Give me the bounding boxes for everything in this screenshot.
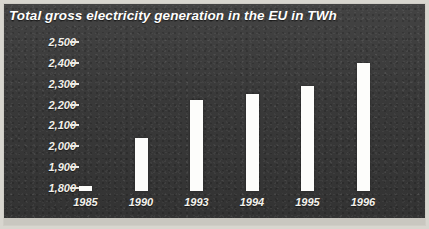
y-axis-tick-row: 2,300 <box>8 77 76 91</box>
y-axis-tick-label: 2,100 <box>6 118 76 132</box>
y-axis-tick-label: 1,800 <box>6 181 76 195</box>
y-axis-tick-mark <box>70 187 79 189</box>
y-axis-tick-mark <box>70 62 79 64</box>
bar-1993 <box>190 100 203 191</box>
bar-1985 <box>79 186 92 191</box>
x-axis-tick-label: 1996 <box>337 196 389 208</box>
y-axis-tick-mark <box>70 124 79 126</box>
y-axis-tick-row: 2,100 <box>8 118 76 132</box>
y-axis-tick-row: 2,400 <box>8 56 76 70</box>
bar-1995 <box>301 86 314 191</box>
bar-1996 <box>357 63 370 191</box>
y-axis-tick-row: 1,900 <box>8 160 76 174</box>
y-axis-tick-label: 2,000 <box>6 139 76 153</box>
y-axis-tick-mark <box>70 41 79 43</box>
chart-title: Total gross electricity generation in th… <box>9 8 337 23</box>
y-axis-tick-label: 2,500 <box>6 35 76 49</box>
y-axis-tick-mark <box>70 145 79 147</box>
x-axis-tick-label: 1993 <box>171 196 223 208</box>
y-axis-tick-row: 2,500 <box>8 35 76 49</box>
y-axis-tick-mark <box>70 104 79 106</box>
chart-plot-area: 2,5002,4002,3002,2002,1002,0001,9001,800… <box>0 0 429 229</box>
y-axis-tick-label: 2,300 <box>6 77 76 91</box>
y-axis-tick-label: 1,900 <box>6 160 76 174</box>
y-axis-tick-label: 2,200 <box>6 98 76 112</box>
y-axis-tick-mark <box>70 83 79 85</box>
bar-1990 <box>135 138 148 191</box>
bar-1994 <box>246 94 259 191</box>
y-axis-tick-row: 1,800 <box>8 181 76 195</box>
x-axis-tick-label: 1990 <box>115 196 167 208</box>
y-axis-tick-row: 2,200 <box>8 98 76 112</box>
y-axis-tick-row: 2,000 <box>8 139 76 153</box>
y-axis-tick-label: 2,400 <box>6 56 76 70</box>
x-axis-tick-label: 1985 <box>60 196 112 208</box>
x-axis-tick-label: 1994 <box>226 196 278 208</box>
y-axis-tick-mark <box>70 166 79 168</box>
chart-card: Total gross electricity generation in th… <box>0 0 429 229</box>
x-axis-tick-label: 1995 <box>282 196 334 208</box>
